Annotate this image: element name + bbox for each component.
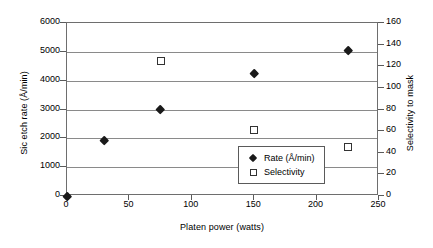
y-axis-right-tick-label: 60 [386,124,426,134]
tick-mark [316,195,317,200]
y-axis-right-tick-label: 0 [386,189,426,199]
y-axis-left-tick-label: 5000 [20,45,60,55]
legend-item-rate: Rate (Å/min) [246,151,315,165]
x-axis-tick-label: 100 [171,199,211,209]
tick-mark [191,195,192,200]
data-point-rate [343,45,352,54]
y-axis-right-tick-label: 40 [386,146,426,156]
x-axis-tick-label: 50 [108,199,148,209]
y-axis-right-tick-label: 120 [386,59,426,69]
tick-mark [378,22,384,23]
tick-mark [378,109,384,110]
open-square-icon [246,169,260,176]
plot-area [66,22,378,195]
data-point-rate [100,135,109,144]
chart-figure: Sic etch rate (Å/min) Selectivity to mas… [0,0,433,248]
gridline [67,81,377,82]
x-axis-title: Platen power (watts) [66,222,378,232]
y-axis-left-tick-label: 6000 [20,16,60,26]
y-axis-right-tick-label: 20 [386,167,426,177]
x-axis-tick-label: 150 [233,199,273,209]
data-point-rate [156,105,165,114]
y-axis-right-tick-label: 140 [386,38,426,48]
tick-mark [378,65,384,66]
tick-mark [378,195,379,200]
y-axis-left-tick-label: 4000 [20,74,60,84]
tick-mark [378,130,384,131]
data-point-selectivity [250,126,258,134]
tick-mark [378,44,384,45]
tick-mark [378,173,384,174]
y-axis-left-tick-label: 3000 [20,103,60,113]
legend-label-selectivity: Selectivity [264,167,305,177]
tick-mark [253,195,254,200]
data-point-rate [250,68,259,77]
y-axis-left-tick-label: 0 [20,189,60,199]
gridline [67,138,377,139]
y-axis-left-title: Sic etch rate (Å/min) [19,53,29,173]
data-point-selectivity [344,143,352,151]
chart-legend: Rate (Å/min) Selectivity [238,146,325,184]
filled-diamond-icon [246,155,260,161]
y-axis-right-tick-label: 160 [386,16,426,26]
legend-label-rate: Rate (Å/min) [264,153,315,163]
legend-item-selectivity: Selectivity [246,165,315,179]
gridline [67,110,377,111]
y-axis-left-tick-label: 2000 [20,131,60,141]
y-axis-left-tick-label: 1000 [20,160,60,170]
gridline [67,52,377,53]
x-axis-tick-label: 200 [296,199,336,209]
x-axis-tick-label: 250 [358,199,398,209]
y-axis-right-tick-label: 80 [386,103,426,113]
tick-mark [378,87,384,88]
data-point-selectivity [157,57,165,65]
tick-mark [128,195,129,200]
gridline [67,167,377,168]
tick-mark [378,152,384,153]
y-axis-right-tick-label: 100 [386,81,426,91]
